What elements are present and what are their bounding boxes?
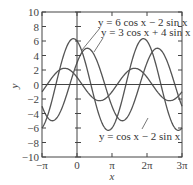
- y-axis-label: y: [8, 83, 20, 89]
- annotation-labels: y = 6 cos x − 2 sin x y = 3 cos x + 4 si…: [82, 16, 191, 142]
- y-tick-label: 10: [28, 6, 40, 18]
- x-tick-label: 2π: [141, 159, 153, 171]
- x-tick-label: 3π: [176, 159, 188, 171]
- x-tick-label: 0: [74, 159, 80, 171]
- x-axis-label: x: [109, 170, 115, 182]
- y-tick-label: 0: [34, 79, 40, 91]
- y-tick-label: −6: [27, 122, 39, 134]
- y-tick-label: 8: [34, 21, 40, 33]
- y-tick-label: −4: [27, 108, 39, 120]
- y-tick-label: −2: [27, 93, 39, 105]
- leader-line-cos: [142, 118, 148, 129]
- y-tick-label: −8: [27, 137, 39, 149]
- y-tick-label: 6: [34, 35, 40, 47]
- curve-label-cos: y = cos x − 2 sin x: [99, 130, 181, 142]
- x-tick-label: −π: [36, 159, 48, 171]
- curve-label-3cos: y = 3 cos x + 4 sin x: [101, 26, 191, 38]
- chart: 1086420−2−4−6−8−10−π0π2π3π y = 6 cos x −…: [0, 0, 193, 185]
- y-tick-label: 4: [34, 50, 40, 62]
- leader-line-3cos: [94, 38, 103, 52]
- y-tick-label: 2: [34, 64, 40, 76]
